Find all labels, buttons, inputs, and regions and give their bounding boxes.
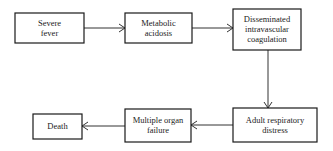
node-death: Death bbox=[33, 114, 82, 139]
node-severe-fever: Severefever bbox=[15, 13, 84, 43]
node-label: intravascular bbox=[245, 24, 289, 34]
node-label: Multiple organ bbox=[133, 115, 184, 125]
node-label: failure bbox=[147, 125, 169, 135]
edge-metabolic-acidosis-to-dic bbox=[192, 24, 233, 32]
node-dic: Disseminatedintravascularcoagulation bbox=[233, 9, 301, 50]
node-multiple-organ-failure: Multiple organfailure bbox=[125, 109, 191, 142]
flowchart: SeverefeverMetabolicacidosisDisseminated… bbox=[0, 0, 333, 151]
node-metabolic-acidosis: Metabolicacidosis bbox=[125, 13, 192, 43]
node-label: acidosis bbox=[145, 28, 172, 38]
edge-severe-fever-to-metabolic-acidosis bbox=[84, 24, 125, 32]
node-ards: Adult respiratorydistress bbox=[233, 108, 317, 142]
node-label: Adult respiratory bbox=[246, 115, 305, 125]
edge-dic-to-ards bbox=[264, 50, 272, 108]
node-label: distress bbox=[262, 125, 288, 135]
node-label: Disseminated bbox=[244, 14, 291, 24]
node-label: fever bbox=[41, 28, 59, 38]
edge-ards-to-multiple-organ-failure bbox=[191, 121, 233, 129]
node-label: Severe bbox=[38, 18, 61, 28]
node-label: Metabolic bbox=[141, 18, 176, 28]
node-label: Death bbox=[47, 121, 68, 131]
edge-multiple-organ-failure-to-death bbox=[82, 122, 125, 130]
node-label: coagulation bbox=[247, 34, 287, 44]
